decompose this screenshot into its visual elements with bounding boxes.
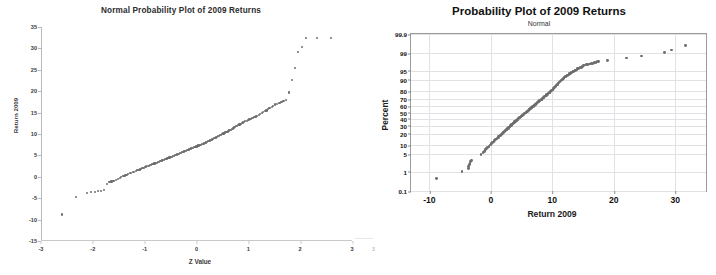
probability-plot-figure-pair: Normal Probability Plot of 2009 Returns … <box>0 0 716 275</box>
right-chart-y-axis-label: Percent <box>380 85 390 145</box>
right-chart-y-tick: 30 <box>400 122 411 129</box>
right-chart-gridline-horizontal <box>411 34 706 35</box>
left-chart-plot-area: -15-10-505101520253035-3-2-10123 <box>41 27 352 241</box>
right-chart-subtitle: Normal <box>362 20 716 27</box>
right-chart-gridline-vertical <box>491 34 492 191</box>
right-chart-gridline-vertical <box>552 34 553 191</box>
left-chart-data-point <box>297 51 299 53</box>
right-chart-gridline-horizontal <box>411 99 706 100</box>
right-chart-gridline-horizontal <box>411 154 706 155</box>
right-chart-gridline-horizontal <box>411 71 706 72</box>
left-chart-data-point <box>86 192 88 194</box>
right-chart-data-point <box>663 51 666 54</box>
right-chart-data-point <box>640 55 643 58</box>
left-chart-data-point <box>330 37 332 39</box>
left-chart-y-tick: 30 <box>31 45 41 51</box>
right-chart-y-tick: 0.1 <box>398 188 411 195</box>
right-chart-data-point <box>684 44 687 47</box>
left-chart-data-point <box>103 189 105 191</box>
chart-normal-probability-plot: Normal Probability Plot of 2009 Returns … <box>0 0 362 275</box>
right-chart-gridline-horizontal <box>411 113 706 114</box>
right-chart-gridline-vertical <box>675 34 676 191</box>
right-chart-plot-area: 0.115102030405060708090959999.9-10010203… <box>410 33 707 192</box>
left-chart-y-tick: 15 <box>31 110 41 116</box>
right-chart-data-point <box>625 57 628 60</box>
right-chart-x-axis-label: Return 2009 <box>402 209 702 219</box>
right-chart-data-point <box>670 49 673 52</box>
left-chart-x-tick: 1 <box>247 241 250 252</box>
right-chart-data-point <box>435 177 438 180</box>
left-chart-data-point <box>285 99 287 101</box>
right-chart-y-tick: 95 <box>400 67 411 74</box>
right-chart-data-point <box>606 59 609 62</box>
right-chart-y-tick: 50 <box>400 109 411 116</box>
scan-smudge <box>355 238 373 239</box>
left-chart-data-point <box>288 91 290 93</box>
right-chart-y-tick: 20 <box>400 130 411 137</box>
right-chart-gridline-horizontal <box>411 172 706 173</box>
left-chart-y-tick: 25 <box>31 67 41 73</box>
chart-minitab-probability-plot: Probability Plot of 2009 Returns Normal … <box>362 0 716 275</box>
right-chart-data-point <box>597 60 600 63</box>
left-chart-data-point <box>291 79 293 81</box>
left-chart-data-point <box>94 191 96 193</box>
right-chart-data-point <box>470 159 473 162</box>
right-chart-x-tick: 20 <box>609 191 619 205</box>
right-chart-y-tick: 60 <box>400 103 411 110</box>
left-chart-data-point <box>305 37 307 39</box>
right-chart-gridline-horizontal <box>411 191 706 192</box>
right-chart-gridline-horizontal <box>411 134 706 135</box>
right-chart-y-tick: 90 <box>400 76 411 83</box>
right-chart-y-tick: 1 <box>404 168 411 175</box>
right-chart-gridline-horizontal <box>411 91 706 92</box>
right-chart-gridline-horizontal <box>411 53 706 54</box>
left-chart-data-point <box>90 191 92 193</box>
page-number-artifact: 3 <box>372 246 375 252</box>
right-chart-gridline-horizontal <box>411 145 706 146</box>
right-chart-y-tick: 99.9 <box>395 31 411 38</box>
left-chart-data-point <box>301 46 303 48</box>
right-chart-y-tick: 80 <box>400 88 411 95</box>
left-chart-y-axis-label: Return 2009 <box>12 86 19 146</box>
right-chart-gridline-horizontal <box>411 126 706 127</box>
right-chart-gridline-horizontal <box>411 119 706 120</box>
right-chart-y-tick: 5 <box>404 151 411 158</box>
left-chart-y-tick: 10 <box>31 131 41 137</box>
left-chart-data-point <box>100 190 102 192</box>
left-chart-x-tick: 0 <box>195 241 198 252</box>
left-chart-data-point <box>316 37 318 39</box>
right-chart-title: Probability Plot of 2009 Returns <box>362 5 716 17</box>
right-chart-gridline-vertical <box>614 34 615 191</box>
right-chart-x-tick: 30 <box>670 191 680 205</box>
left-chart-x-tick: 3 <box>350 241 353 252</box>
right-chart-x-tick: 0 <box>489 191 494 205</box>
left-chart-data-point <box>294 67 296 69</box>
right-chart-y-tick: 40 <box>400 115 411 122</box>
left-chart-data-point <box>61 213 63 215</box>
left-chart-y-tick: 0 <box>34 174 41 180</box>
left-chart-data-point <box>97 190 99 192</box>
right-chart-gridline-horizontal <box>411 106 706 107</box>
right-chart-x-tick: 10 <box>548 191 558 205</box>
left-chart-x-tick: -1 <box>142 241 147 252</box>
left-chart-y-tick: -10 <box>29 217 41 223</box>
left-chart-x-tick: 2 <box>299 241 302 252</box>
right-chart-y-tick: 70 <box>400 96 411 103</box>
left-chart-y-tick: 5 <box>34 152 41 158</box>
left-chart-title: Normal Probability Plot of 2009 Returns <box>0 6 362 15</box>
left-chart-y-tick: -5 <box>32 195 41 201</box>
right-chart-y-tick: 99 <box>400 50 411 57</box>
left-chart-y-tick: 35 <box>31 24 41 30</box>
left-chart-y-axis-line <box>41 27 42 241</box>
left-chart-x-tick: -3 <box>39 241 44 252</box>
left-chart-y-tick: 20 <box>31 88 41 94</box>
right-chart-y-tick: 10 <box>400 142 411 149</box>
left-chart-data-point <box>75 196 77 198</box>
right-chart-gridline-vertical <box>429 34 430 191</box>
right-chart-x-tick: -10 <box>423 191 435 205</box>
left-chart-x-axis-label: Z Value <box>40 258 360 265</box>
left-chart-x-tick: -2 <box>90 241 95 252</box>
